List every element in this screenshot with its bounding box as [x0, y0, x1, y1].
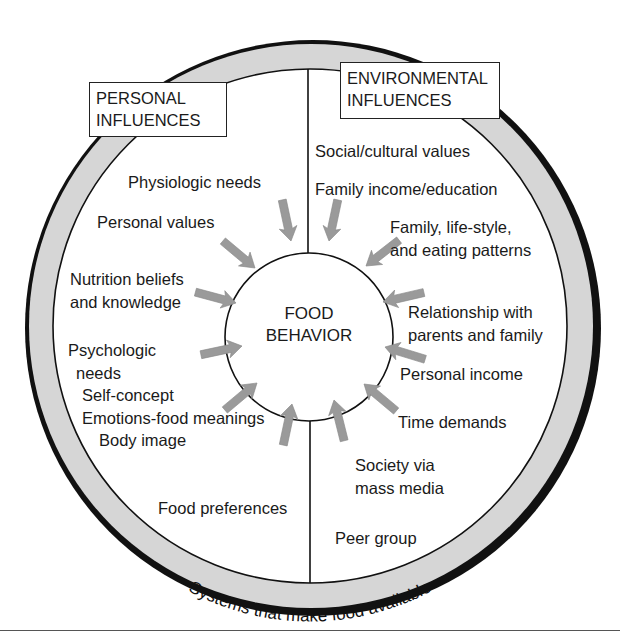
label-body-image: Body image	[99, 430, 186, 451]
label-social-cultural-values: Social/cultural values	[315, 141, 470, 162]
personal-title-line2: INFLUENCES	[96, 109, 220, 131]
label-physiologic-needs: Physiologic needs	[128, 172, 261, 193]
label-personal-values: Personal values	[97, 212, 214, 233]
environmental-title-line1: ENVIRONMENTAL	[347, 67, 493, 89]
label-food-preferences: Food preferences	[158, 498, 287, 519]
label-family-income-education: Family income/education	[315, 179, 498, 200]
label-emotions-food-meanings: Emotions-food meanings	[82, 408, 265, 429]
label-personal-income: Personal income	[400, 364, 523, 385]
label-society-via: Society via	[355, 455, 435, 476]
label-psychologic: Psychologic	[68, 340, 156, 361]
environmental-title-line2: INFLUENCES	[347, 89, 493, 111]
label-mass-media: mass media	[355, 478, 444, 499]
label-nutrition-beliefs: Nutrition beliefs	[70, 269, 184, 290]
label-time-demands: Time demands	[398, 412, 507, 433]
label-eating-patterns: and eating patterns	[390, 240, 531, 261]
center-line1: FOOD	[250, 303, 368, 325]
center-line2: BEHAVIOR	[250, 325, 368, 347]
label-self-concept: Self-concept	[82, 385, 174, 406]
label-parents-and-family: parents and family	[408, 325, 543, 346]
label-and-knowledge: and knowledge	[70, 292, 181, 313]
label-peer-group: Peer group	[335, 528, 417, 549]
personal-title-line1: PERSONAL	[96, 87, 220, 109]
label-relationship-with: Relationship with	[408, 302, 533, 323]
label-needs: needs	[76, 363, 121, 384]
environmental-influences-box: ENVIRONMENTAL INFLUENCES	[340, 62, 500, 119]
food-behavior-label: FOOD BEHAVIOR	[250, 303, 368, 347]
personal-influences-box: PERSONAL INFLUENCES	[89, 82, 227, 137]
label-family-lifestyle: Family, life-style,	[390, 217, 512, 238]
bottom-rule	[0, 630, 620, 631]
